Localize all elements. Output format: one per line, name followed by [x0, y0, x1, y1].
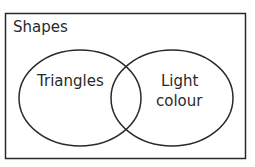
set-label-light-colour-line2: colour [156, 92, 202, 111]
set-label-light-colour-line1: Light [161, 72, 198, 91]
set-label-triangles: Triangles [37, 72, 104, 91]
set-circle-triangles [19, 50, 141, 146]
universal-set-label: Shapes [13, 18, 68, 37]
